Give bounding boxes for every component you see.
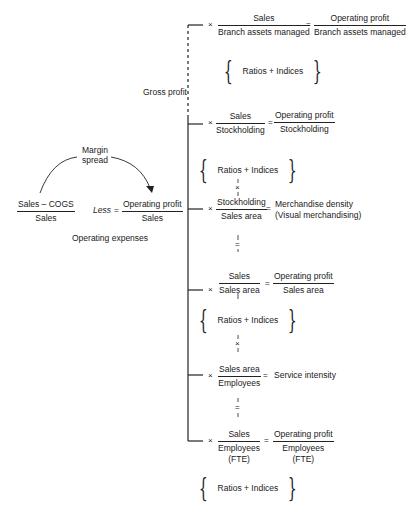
ratios-indices-group: {Ratios + Indices} xyxy=(220,58,326,84)
ratio-stockholding-sales-area: StockholdingSales area xyxy=(216,197,267,222)
margin-arc-left xyxy=(40,157,77,193)
arrow-head-icon xyxy=(146,186,154,193)
times-sign: × xyxy=(208,285,213,295)
result-op-profit-employees: Operating profitEmployees(FTE) xyxy=(273,429,334,465)
times-sign: × xyxy=(208,371,213,381)
margin-spread-label: Margin spread xyxy=(82,145,108,165)
diagram-lines xyxy=(0,0,413,515)
ratios-indices-group: {Ratios + Indices} xyxy=(195,157,301,183)
merchandise-density-label: Merchandise density (Visual merchandisin… xyxy=(275,199,361,221)
ratio-sales-sales-area: SalesSales area xyxy=(219,271,260,296)
result-op-profit-sales-area: Operating profitSales area xyxy=(273,271,334,296)
operating-margin-fraction: Operating profit Sales xyxy=(122,199,183,224)
equals-sign: = xyxy=(264,436,269,446)
margin-arc-right xyxy=(111,157,150,188)
times-connector: × xyxy=(235,339,240,349)
equals-sign: = xyxy=(268,118,273,128)
result-op-profit-stockholding: Operating profitStockholding xyxy=(274,110,335,135)
gross-profit-label: Gross profit xyxy=(143,87,187,97)
times-sign: × xyxy=(208,20,213,30)
ratio-sales-stockholding: SalesStockholding xyxy=(216,111,265,136)
ratios-indices-group: {Ratios + Indices} xyxy=(195,307,301,333)
service-intensity-label: Service intensity xyxy=(274,370,336,380)
ratio-sales-area-employees: Sales areaEmployees xyxy=(218,364,261,389)
result-op-profit-branch-assets: Operating profitBranch assets managed xyxy=(314,13,406,38)
equals-connector: = xyxy=(235,403,240,413)
equals-sign: = xyxy=(265,279,270,289)
equals-sign: = xyxy=(306,20,311,30)
times-sign: × xyxy=(208,118,213,128)
ratios-indices-group: {Ratios + Indices} xyxy=(195,475,301,501)
operating-expenses-label: Operating expenses xyxy=(72,233,148,243)
ratio-sales-branch-assets: SalesBranch assets managed xyxy=(218,13,310,38)
times-connector: × xyxy=(235,183,240,193)
times-sign: × xyxy=(208,204,213,214)
less-label: Less xyxy=(93,205,111,215)
equals-connector: = xyxy=(235,240,240,250)
equals-sign: = xyxy=(263,371,268,381)
equals-sign: = xyxy=(114,206,119,216)
equals-sign: = xyxy=(266,204,271,214)
times-sign: × xyxy=(208,436,213,446)
ratio-sales-employees: SalesEmployees(FTE) xyxy=(218,429,260,465)
gross-margin-fraction: Sales – COGS Sales xyxy=(17,199,75,224)
